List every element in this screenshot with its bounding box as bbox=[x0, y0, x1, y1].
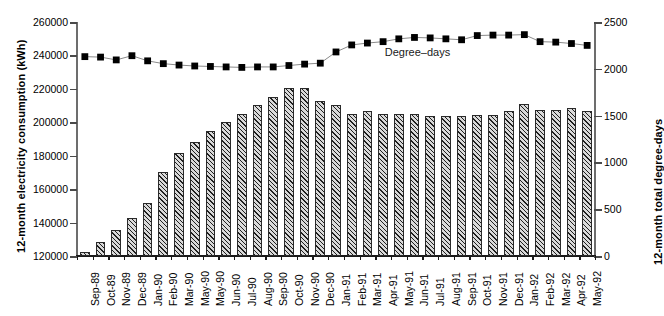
y-axis-left-tick-label: 120000 bbox=[33, 250, 68, 262]
x-axis-category-label: Oct-91 bbox=[481, 274, 493, 306]
y-axis-left-tick-label: 260000 bbox=[33, 16, 68, 28]
y-axis-right-title: 12-month total degree-days bbox=[652, 119, 664, 265]
x-axis-category-label: May-91 bbox=[403, 271, 415, 306]
degree-days-marker bbox=[411, 34, 418, 41]
y-axis-left-tick-label: 140000 bbox=[33, 217, 68, 229]
degree-days-marker bbox=[490, 32, 497, 39]
x-axis-category-label: Dec-90 bbox=[324, 272, 336, 306]
y-axis-right-tick bbox=[594, 209, 602, 211]
x-axis-category-label: May-92 bbox=[591, 271, 603, 306]
y-axis-left-tick-label: 240000 bbox=[33, 49, 68, 61]
degree-days-marker bbox=[301, 61, 308, 68]
degree-days-marker bbox=[584, 42, 591, 49]
x-axis-tick bbox=[595, 255, 596, 260]
x-axis-category-label: May-90 bbox=[199, 271, 211, 306]
degree-days-marker bbox=[348, 42, 355, 49]
x-axis-category-label: Sep-91 bbox=[466, 272, 478, 306]
y-axis-right-tick bbox=[594, 22, 602, 24]
x-axis-category-label: Oct-90 bbox=[293, 274, 305, 306]
plot-area: 1200001400001600001800002000002200002400… bbox=[77, 22, 595, 256]
x-axis-category-label: Oct-89 bbox=[105, 274, 117, 306]
y-axis-left-tick bbox=[70, 122, 77, 124]
degree-days-marker bbox=[238, 64, 245, 71]
x-axis-category-label: Jun-90 bbox=[230, 274, 242, 306]
y-axis-right-tick bbox=[594, 162, 602, 164]
y-axis-left-tick bbox=[70, 223, 77, 225]
y-axis-left-tick-label: 200000 bbox=[33, 116, 68, 128]
x-axis-category-label: Aug-90 bbox=[262, 272, 274, 306]
degree-days-marker bbox=[317, 60, 324, 67]
x-axis-category-label: Mar-91 bbox=[371, 273, 383, 306]
x-axis-category-label: Dec-91 bbox=[513, 272, 525, 306]
y-axis-right-tick-label: 1500 bbox=[604, 110, 627, 122]
y-axis-left-tick bbox=[70, 89, 77, 91]
degree-days-marker bbox=[160, 60, 167, 67]
degree-days-marker bbox=[568, 40, 575, 47]
degree-days-marker bbox=[223, 64, 230, 71]
y-axis-left-tick bbox=[70, 156, 77, 158]
y-axis-left-title: 12-month electricity consumption (kWh) bbox=[15, 40, 27, 253]
x-axis-category-label: Jun-91 bbox=[418, 274, 430, 306]
degree-days-marker bbox=[505, 32, 512, 39]
x-axis-category-label: Jul-91 bbox=[434, 277, 446, 306]
degree-days-marker bbox=[129, 52, 136, 59]
degree-days-marker bbox=[458, 36, 465, 43]
x-axis-category-label: Apr-92 bbox=[575, 274, 587, 306]
y-axis-right-tick bbox=[594, 116, 602, 118]
x-axis-category-label: Nov-91 bbox=[497, 272, 509, 306]
degree-days-marker bbox=[207, 63, 214, 70]
x-axis-category-label: Aug-91 bbox=[450, 272, 462, 306]
y-axis-left-tick-label: 160000 bbox=[33, 183, 68, 195]
degree-days-marker bbox=[395, 35, 402, 42]
degree-days-annotation: Degree–days bbox=[385, 46, 450, 58]
x-axis-category-label: Feb-92 bbox=[544, 273, 556, 306]
degree-days-marker bbox=[364, 40, 371, 47]
x-axis-category-label: Dec-89 bbox=[136, 272, 148, 306]
degree-days-marker bbox=[270, 64, 277, 71]
x-axis-category-label: Jul-90 bbox=[246, 277, 258, 306]
degree-days-marker bbox=[427, 35, 434, 42]
y-axis-right-tick bbox=[594, 69, 602, 71]
degree-days-marker bbox=[144, 57, 151, 64]
y-axis-left-tick-label: 220000 bbox=[33, 83, 68, 95]
y-axis-right-tick-label: 2500 bbox=[604, 16, 627, 28]
x-axis-category-label: Feb-91 bbox=[356, 273, 368, 306]
degree-days-marker bbox=[474, 32, 481, 39]
degree-days-marker bbox=[380, 38, 387, 45]
degree-days-markers bbox=[81, 31, 590, 71]
y-axis-right-tick-label: 1000 bbox=[604, 156, 627, 168]
degree-days-marker bbox=[286, 62, 293, 69]
x-axis-category-label: Mar-92 bbox=[560, 273, 572, 306]
y-axis-right-tick-label: 0 bbox=[604, 250, 610, 262]
x-axis-category-label: Sep-90 bbox=[277, 272, 289, 306]
degree-days-marker bbox=[97, 54, 104, 61]
y-axis-right-tick-label: 500 bbox=[604, 203, 622, 215]
x-axis-category-label: Nov-89 bbox=[120, 272, 132, 306]
x-axis-category-label: Sep-89 bbox=[89, 272, 101, 306]
x-axis-category-label: Feb-90 bbox=[167, 273, 179, 306]
x-axis-category-label: Apr-91 bbox=[387, 274, 399, 306]
degree-days-marker bbox=[176, 62, 183, 69]
x-axis-category-label: Jan-91 bbox=[340, 274, 352, 306]
degree-days-marker bbox=[113, 57, 120, 64]
x-axis-category-label: Nov-90 bbox=[309, 272, 321, 306]
y-axis-left-tick-label: 180000 bbox=[33, 150, 68, 162]
y-axis-left-tick bbox=[70, 256, 77, 258]
degree-days-marker bbox=[191, 63, 198, 70]
x-axis-category-label: May-90 bbox=[214, 271, 226, 306]
degree-days-marker bbox=[521, 31, 528, 38]
degree-days-marker bbox=[537, 38, 544, 45]
y-axis-left-tick bbox=[70, 55, 77, 57]
x-axis-category-label: Mar-90 bbox=[183, 273, 195, 306]
y-axis-right-tick-label: 2000 bbox=[604, 63, 627, 75]
degree-days-marker bbox=[254, 64, 261, 71]
x-axis-category-label: Jan-90 bbox=[152, 274, 164, 306]
degree-days-marker bbox=[442, 35, 449, 42]
y-axis-left-tick bbox=[70, 189, 77, 191]
degree-days-marker bbox=[552, 39, 559, 46]
line-series-degree-days bbox=[77, 22, 595, 256]
degree-days-marker bbox=[333, 49, 340, 56]
x-axis-category-label: Jan-92 bbox=[528, 274, 540, 306]
degree-days-marker bbox=[81, 53, 88, 60]
